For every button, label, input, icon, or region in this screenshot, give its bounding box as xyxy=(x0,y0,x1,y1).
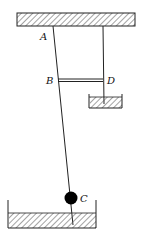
string-to-small-container xyxy=(103,26,104,104)
bar-BD xyxy=(58,79,103,82)
small-container xyxy=(89,94,122,108)
ceiling-support xyxy=(17,13,135,26)
label-A: A xyxy=(39,31,47,42)
label-D: D xyxy=(106,75,115,86)
label-C: C xyxy=(80,193,88,204)
large-container xyxy=(8,200,96,228)
ball-C xyxy=(65,192,78,205)
label-B: B xyxy=(45,75,53,86)
diagram-canvas: A B D C xyxy=(0,0,141,235)
